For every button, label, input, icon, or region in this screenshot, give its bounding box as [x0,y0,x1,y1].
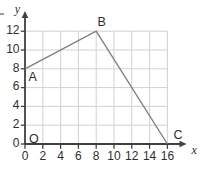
y-tick-label: 8 [13,61,20,75]
y-axis-arrowhead-icon [22,11,29,18]
origin-label: O [29,132,39,146]
y-tick-label: 10 [6,42,20,56]
x-tick-label: 0 [22,149,29,163]
x-tick-label: 14 [143,149,157,163]
y-axis-label: y [14,2,21,16]
y-tick-label: 0 [13,136,20,150]
point-labels: ABC [29,15,183,142]
coordinate-graph-figure: 0246810121416 024681012 ABC y x O [0,0,200,171]
y-tick-label: 2 [13,117,20,131]
x-axis-label: x [191,143,198,157]
y-tick-label: 12 [6,23,20,37]
point-label-a: A [29,70,38,84]
edge-artifact-mark [0,13,4,15]
y-tick-label: 6 [13,79,20,93]
x-tick-label: 2 [39,149,46,163]
x-tick-label: 12 [125,149,139,163]
y-tick-label: 4 [13,98,20,112]
x-tick-label: 8 [93,149,100,163]
x-tick-label: 16 [161,149,175,163]
x-tick-label: 10 [107,149,121,163]
point-label-b: B [98,15,106,29]
x-tick-label: 4 [57,149,64,163]
point-label-c: C [173,128,182,142]
x-tick-labels: 0246810121416 [22,149,175,163]
coordinate-graph: 0246810121416 024681012 ABC y x O [0,0,200,171]
y-tick-labels: 024681012 [6,23,20,150]
gridlines [25,31,167,144]
x-tick-label: 6 [75,149,82,163]
